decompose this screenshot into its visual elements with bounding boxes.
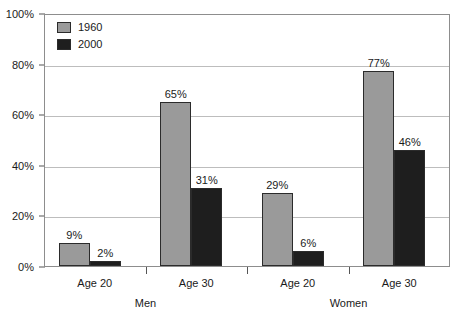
bar: 9% [59, 243, 90, 266]
bar-value-label: 46% [399, 137, 421, 148]
bar-chart: 0%20%40%60%80%100% 19602000 9%2%65%31%29… [0, 0, 456, 318]
legend-label: 1960 [78, 22, 102, 33]
y-tick-label: 0% [18, 262, 34, 273]
legend: 19602000 [57, 19, 102, 53]
y-tick-label: 100% [6, 9, 34, 20]
bar-value-label: 29% [266, 180, 288, 191]
y-axis: 0%20%40%60%80%100% [0, 0, 40, 270]
x-tick-mark [247, 267, 248, 274]
x-category-label: Age 20 [280, 277, 315, 289]
bar-value-label: 77% [368, 58, 390, 69]
bar: 2% [90, 261, 121, 266]
bar-value-label: 9% [66, 230, 82, 241]
legend-item[interactable]: 2000 [57, 36, 102, 53]
x-axis-group-labels: MenWomen [44, 297, 450, 313]
x-category-label: Age 30 [179, 277, 214, 289]
bar: 65% [160, 102, 191, 266]
x-category-label: Age 30 [382, 277, 417, 289]
y-tick-label: 60% [12, 110, 34, 121]
x-axis-separators [44, 267, 450, 274]
x-category-label: Age 20 [77, 277, 112, 289]
x-group-label: Women [330, 297, 368, 309]
bar: 77% [363, 71, 394, 266]
bar: 46% [394, 150, 425, 266]
legend-item[interactable]: 1960 [57, 19, 102, 36]
y-tick-label: 40% [12, 160, 34, 171]
x-group-label: Men [135, 297, 156, 309]
x-tick-mark [146, 267, 147, 274]
bar: 6% [293, 251, 324, 266]
x-tick-mark [349, 267, 350, 274]
legend-swatch-icon [57, 22, 71, 33]
bar: 31% [191, 188, 222, 266]
bar-value-label: 2% [97, 248, 113, 259]
bar-value-label: 31% [196, 175, 218, 186]
y-tick-label: 20% [12, 211, 34, 222]
legend-swatch-icon [57, 39, 71, 50]
bar-value-label: 65% [165, 89, 187, 100]
legend-label: 2000 [78, 39, 102, 50]
bar-value-label: 6% [300, 238, 316, 249]
y-tick-label: 80% [12, 59, 34, 70]
bars-layer: 9%2%65%31%29%6%77%46% [45, 15, 449, 266]
bar: 29% [262, 193, 293, 266]
plot-area: 19602000 9%2%65%31%29%6%77%46% [44, 14, 450, 267]
x-axis-category-labels: Age 20Age 30Age 20Age 30 [44, 277, 450, 293]
